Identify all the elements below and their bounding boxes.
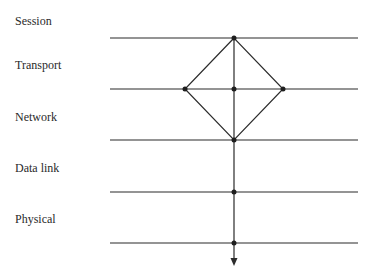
node-dot xyxy=(232,138,237,143)
node-dot xyxy=(232,87,237,92)
node-dot xyxy=(281,87,286,92)
node-dot xyxy=(232,36,237,41)
node-dot xyxy=(183,87,188,92)
node-dot xyxy=(232,241,237,246)
arrow-down-icon xyxy=(231,258,238,266)
node-dot xyxy=(232,190,237,195)
osi-layer-diagram xyxy=(0,0,371,272)
